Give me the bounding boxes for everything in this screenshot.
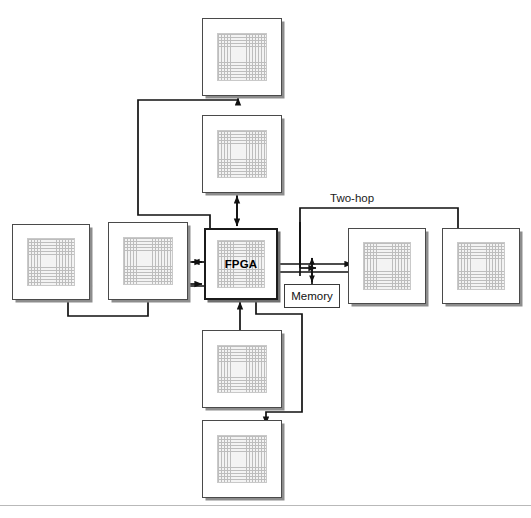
chip-lower[interactable] bbox=[202, 330, 282, 408]
die-pattern bbox=[217, 130, 267, 178]
memory-label: Memory bbox=[291, 290, 333, 302]
die-pattern bbox=[217, 345, 267, 393]
chip-top[interactable] bbox=[202, 18, 282, 96]
die-pattern bbox=[217, 240, 265, 288]
chip-upper[interactable] bbox=[202, 115, 282, 193]
die-pattern bbox=[217, 435, 267, 483]
chip-far-left[interactable] bbox=[12, 224, 90, 300]
memory-block[interactable]: Memory bbox=[284, 284, 340, 308]
two-hop-label: Two-hop bbox=[330, 192, 374, 204]
diagram-canvas: FPGA Memory Two-hop bbox=[0, 0, 531, 518]
chip-fpga[interactable]: FPGA bbox=[204, 228, 278, 300]
die-pattern bbox=[27, 238, 75, 286]
chip-far-right[interactable] bbox=[442, 228, 520, 304]
chip-bottom[interactable] bbox=[202, 420, 282, 498]
die-pattern bbox=[123, 237, 173, 285]
chip-left[interactable] bbox=[108, 222, 188, 300]
die-pattern bbox=[457, 242, 505, 290]
caption-rule bbox=[0, 505, 531, 506]
chip-right[interactable] bbox=[348, 228, 426, 304]
die-pattern bbox=[363, 242, 411, 290]
die-pattern bbox=[217, 33, 267, 81]
